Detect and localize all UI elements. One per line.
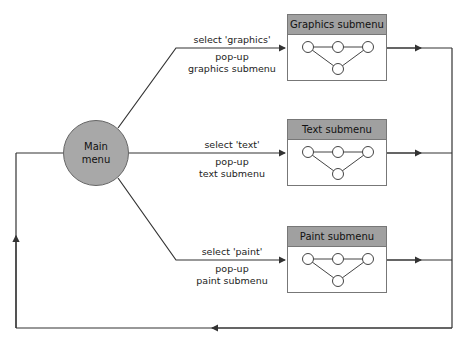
mini-graph-icon — [288, 247, 386, 293]
paint-submenu-box: Paint submenu — [287, 226, 387, 293]
main-menu-node: Main menu — [63, 120, 129, 186]
text-action-line2: text submenu — [180, 168, 284, 180]
graphics-submenu-box: Graphics submenu — [287, 14, 387, 81]
main-menu-label-line1: Main — [84, 140, 108, 153]
paint-action-line1: pop-up — [180, 263, 284, 275]
text-submenu-title: Text submenu — [288, 120, 386, 140]
main-menu-label-line2: menu — [82, 153, 111, 166]
graphics-action-line2: graphics submenu — [180, 63, 284, 75]
graphics-transition-event: select 'graphics' — [180, 34, 284, 46]
text-action-line1: pop-up — [180, 156, 284, 168]
mini-graph-icon — [288, 35, 386, 81]
mini-graph-icon — [288, 140, 386, 186]
paint-transition-event: select 'paint' — [180, 246, 284, 258]
text-submenu-box: Text submenu — [287, 119, 387, 186]
paint-action-line2: paint submenu — [180, 275, 284, 287]
text-transition-event: select 'text' — [180, 139, 284, 151]
paint-submenu-title: Paint submenu — [288, 227, 386, 247]
graphics-action-line1: pop-up — [180, 51, 284, 63]
graphics-submenu-title: Graphics submenu — [288, 15, 386, 35]
